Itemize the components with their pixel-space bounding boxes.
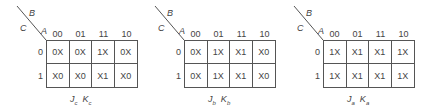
var-label-c: C xyxy=(20,23,27,33)
column-header: 11 xyxy=(369,29,392,39)
var-label-c: C xyxy=(158,23,165,33)
kmap-grid: 1XX1X11X1XX1X11X xyxy=(323,40,415,88)
row-header: 0 xyxy=(312,47,320,57)
kmap-cell: X0 xyxy=(253,64,276,87)
kmap-cell: 1X xyxy=(208,64,231,87)
kmap-cell: 0X xyxy=(115,41,138,64)
kmap-cell: X1 xyxy=(347,64,370,87)
row-header: 0 xyxy=(35,47,43,57)
kmap-cell: X1 xyxy=(347,41,370,64)
kmap-cell: 1X xyxy=(208,41,231,64)
column-header: 10 xyxy=(392,29,415,39)
kmap-cell: X0 xyxy=(115,64,138,87)
kmap-cell: X0 xyxy=(47,64,70,87)
kmap-cell: 1X xyxy=(392,64,415,87)
column-header: 00 xyxy=(46,29,69,39)
kmap-cell: 1X xyxy=(324,64,347,87)
kmap-2: BCA00011110010X1XX1X00X1XX1X0Jb Kb xyxy=(138,0,278,110)
row-header: 0 xyxy=(173,47,181,57)
kmap-caption: Jb Kb xyxy=(208,94,230,106)
column-header: 01 xyxy=(346,29,369,39)
column-header: 10 xyxy=(115,29,138,39)
column-header: 10 xyxy=(253,29,276,39)
kmap-grid: 0X0X1X0XX0X0X1X0 xyxy=(46,40,138,88)
kmap-3: BCA00011110011XX1X11X1XX1X11XJa Ka xyxy=(277,0,417,110)
kmap-cell: 0X xyxy=(185,41,208,64)
var-label-b: B xyxy=(29,8,35,18)
kmap-cell: 1X xyxy=(324,41,347,64)
var-label-b: B xyxy=(306,8,312,18)
column-header: 01 xyxy=(207,29,230,39)
column-header: 11 xyxy=(92,29,115,39)
kmap-cell: X1 xyxy=(230,64,253,87)
column-header: 11 xyxy=(230,29,253,39)
kmap-cell: X0 xyxy=(70,64,93,87)
kmap-1: BCA00011110010X0X1X0XX0X0X1X0Jc Kc xyxy=(0,0,140,110)
kmap-cell: X1 xyxy=(92,64,115,87)
kmap-cell: 0X xyxy=(70,41,93,64)
kmap-grid: 0X1XX1X00X1XX1X0 xyxy=(184,40,276,88)
column-header: 00 xyxy=(323,29,346,39)
kmap-caption: Ja Ka xyxy=(347,94,369,106)
column-header: 01 xyxy=(69,29,92,39)
kmap-caption: Jc Kc xyxy=(70,94,92,106)
kmap-cell: 1X xyxy=(92,41,115,64)
kmap-cell: 0X xyxy=(47,41,70,64)
column-header: 00 xyxy=(184,29,207,39)
row-header: 1 xyxy=(173,71,181,81)
row-header: 1 xyxy=(35,71,43,81)
kmap-cell: X0 xyxy=(253,41,276,64)
kmap-cell: X1 xyxy=(369,64,392,87)
kmap-cell: 1X xyxy=(392,41,415,64)
var-label-b: B xyxy=(167,8,173,18)
kmap-cell: X1 xyxy=(369,41,392,64)
kmap-cell: 0X xyxy=(185,64,208,87)
row-header: 1 xyxy=(312,71,320,81)
var-label-c: C xyxy=(297,23,304,33)
kmap-cell: X1 xyxy=(230,41,253,64)
